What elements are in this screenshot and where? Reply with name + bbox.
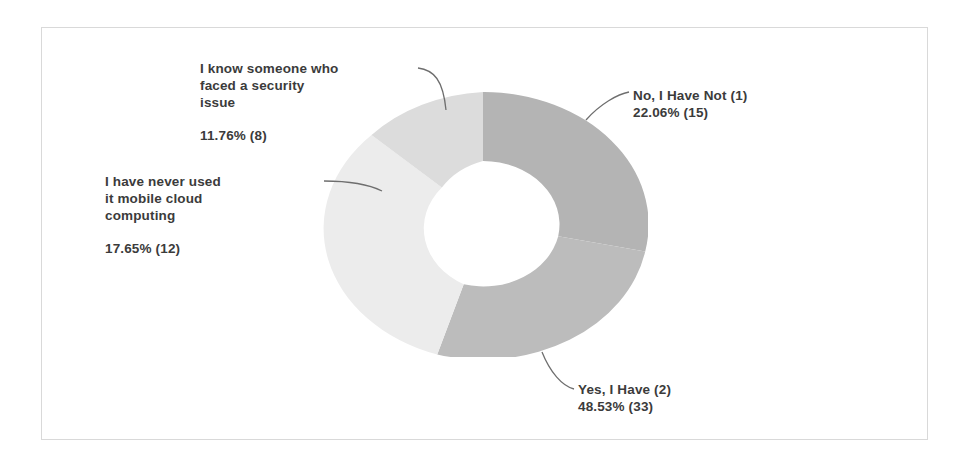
slice-label-never-used: I have never used it mobile cloud comput…: [105, 173, 320, 257]
slice-label-never-used-value: 17.65% (12): [105, 240, 320, 257]
slice-label-know-someone: I know someone who faced a security issu…: [200, 60, 415, 144]
donut-slice-no-have-not[interactable]: [483, 92, 648, 251]
slice-label-no-have-not-value: 22.06% (15): [633, 104, 883, 121]
slice-label-no-have-not: No, I Have Not (1) 22.06% (15): [633, 87, 883, 121]
slice-label-know-someone-category: I know someone who faced a security issu…: [200, 60, 415, 111]
donut-slice-yes-have[interactable]: [437, 236, 645, 357]
slice-label-never-used-category: I have never used it mobile cloud comput…: [105, 173, 320, 224]
slice-label-yes-have: Yes, I Have (2) 48.53% (33): [578, 381, 828, 415]
slice-label-know-someone-value: 11.76% (8): [200, 127, 415, 144]
slice-label-yes-have-value: 48.53% (33): [578, 398, 828, 415]
slice-label-yes-have-category: Yes, I Have (2): [578, 381, 828, 398]
slice-label-no-have-not-category: No, I Have Not (1): [633, 87, 883, 104]
